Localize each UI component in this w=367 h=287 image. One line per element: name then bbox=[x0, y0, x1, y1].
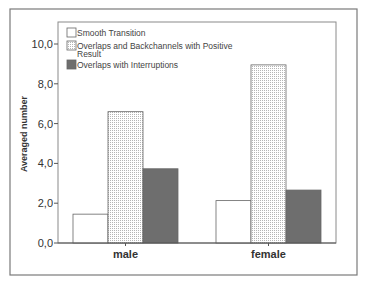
bar-male-0 bbox=[73, 214, 108, 243]
legend-swatch-0 bbox=[67, 28, 76, 37]
bar-chart: 0,02,04,06,08,010,0 malefemale Averaged … bbox=[0, 0, 367, 287]
legend-label-1-line2: Result bbox=[77, 49, 102, 59]
bar-male-1 bbox=[108, 112, 143, 243]
y-tick-label: 2,0 bbox=[38, 197, 53, 209]
bar-female-2 bbox=[286, 190, 321, 243]
legend-swatch-2 bbox=[67, 60, 76, 69]
legend-label-2: Overlaps with Interruptions bbox=[77, 60, 178, 70]
x-tick-label: female bbox=[251, 248, 286, 260]
legend-label-0: Smooth Transition bbox=[77, 28, 146, 38]
chart-container: 0,02,04,06,08,010,0 malefemale Averaged … bbox=[0, 0, 367, 287]
bar-female-0 bbox=[216, 201, 251, 243]
bar-female-1 bbox=[251, 65, 286, 243]
y-tick-label: 8,0 bbox=[38, 78, 53, 90]
y-tick-label: 6,0 bbox=[38, 118, 53, 130]
y-axis-label: Averaged number bbox=[19, 95, 29, 172]
x-tick-label: male bbox=[113, 248, 138, 260]
y-tick-label: 10,0 bbox=[32, 38, 53, 50]
legend-swatch-1 bbox=[67, 41, 76, 50]
y-tick-label: 4,0 bbox=[38, 157, 53, 169]
y-tick-label: 0,0 bbox=[38, 237, 53, 249]
bar-male-2 bbox=[143, 169, 178, 243]
